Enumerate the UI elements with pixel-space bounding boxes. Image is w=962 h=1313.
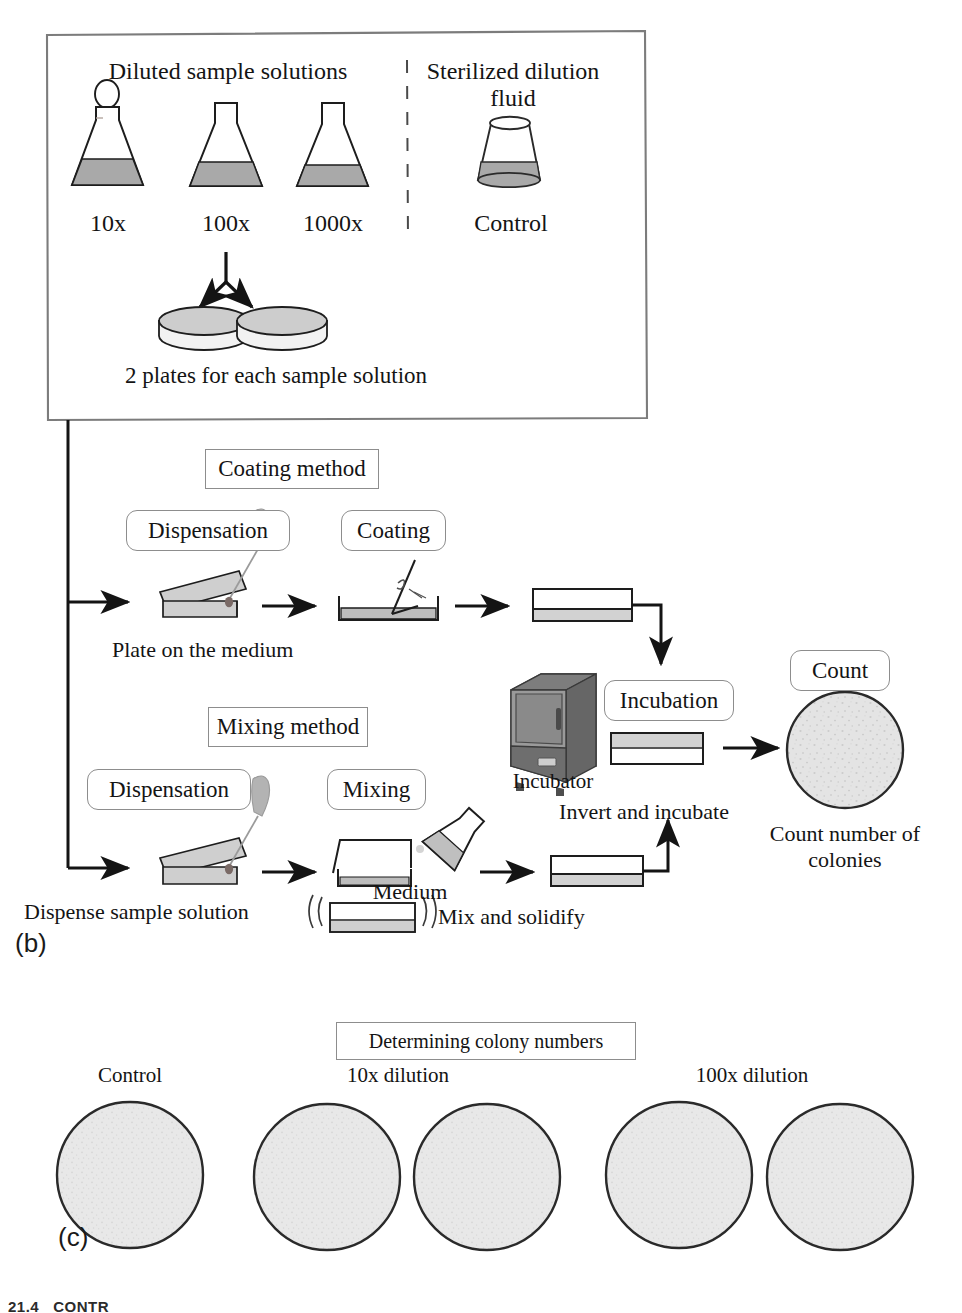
panel-c-plate-100x-b — [767, 1104, 913, 1250]
figure-footer-text: 21.4 CONTR — [8, 1298, 109, 1313]
mix-and-solidify-caption: Mix and solidify — [438, 905, 585, 930]
mixing-to-incubation-connector — [643, 820, 668, 871]
mixing-label-box: Mixing — [327, 769, 426, 810]
inverted-plate-icon — [611, 733, 703, 764]
count-caption-line1: Count number of — [770, 822, 920, 847]
plate-on-medium-caption: Plate on the medium — [112, 638, 293, 663]
flask-10x — [72, 80, 143, 185]
mixing-closed-plate — [551, 856, 643, 886]
coating-method-title: Coating method — [218, 456, 366, 482]
flask-label-1000x: 1000x — [303, 210, 363, 237]
box-divider — [407, 60, 408, 240]
flask-label-10x: 10x — [90, 210, 126, 237]
dispense-sample-caption: Dispense sample solution — [24, 900, 249, 925]
heading-diluted-samples: Diluted sample solutions — [109, 58, 348, 85]
petri-dish-left — [159, 307, 249, 350]
incubator-device-label: Incubator — [513, 770, 593, 794]
panel-c-plate-100x-a — [606, 1102, 752, 1248]
mixing-label: Mixing — [343, 777, 411, 803]
count-colony-plate — [787, 692, 903, 808]
panel-c-plate-10x-b — [414, 1104, 560, 1250]
heading-sterilized-fluid-line1: Sterilized dilution — [427, 58, 600, 85]
coating-label: Coating — [357, 518, 430, 544]
control-beaker — [478, 117, 540, 188]
coating-label-box: Coating — [341, 510, 446, 551]
figure-canvas: Diluted sample solutions Sterilized dilu… — [0, 0, 962, 1313]
incubation-label-box: Incubation — [604, 680, 734, 721]
coating-closed-plate — [533, 589, 632, 621]
mixing-dispensation-label: Dispensation — [109, 777, 229, 803]
flask-1000x — [297, 103, 368, 186]
plates-caption: 2 plates for each sample solution — [125, 363, 427, 389]
panel-label-c: (c) — [58, 1222, 88, 1253]
mixing-method-title: Mixing method — [217, 714, 359, 740]
panel-c-title-box: Determining colony numbers — [336, 1022, 636, 1060]
medium-caption: Medium — [373, 880, 448, 905]
heading-sterilized-fluid-line2: fluid — [490, 85, 535, 112]
coating-spread-icon — [339, 560, 438, 620]
coating-method-title-box: Coating method — [205, 449, 379, 489]
panel-c-plate-10x-a — [254, 1104, 400, 1250]
flask-label-100x: 100x — [202, 210, 250, 237]
invert-and-incubate-caption: Invert and incubate — [559, 800, 729, 825]
coating-dispensation-label-box: Dispensation — [126, 510, 290, 551]
incubation-label: Incubation — [620, 688, 718, 714]
coating-dispensation-label: Dispensation — [148, 518, 268, 544]
count-label: Count — [812, 658, 868, 684]
panel-c-group-label-100x: 100x dilution — [696, 1064, 809, 1088]
panel-c-group-label-10x: 10x dilution — [347, 1064, 449, 1088]
flask-100x — [190, 103, 262, 186]
petri-dish-right — [237, 307, 327, 350]
count-caption-line2: colonies — [808, 848, 881, 873]
control-label: Control — [474, 210, 547, 237]
mixing-dispensation-label-box: Dispensation — [87, 769, 251, 810]
panel-c-title: Determining colony numbers — [369, 1030, 603, 1053]
count-label-box: Count — [790, 650, 890, 691]
mixing-method-title-box: Mixing method — [208, 707, 368, 747]
mixing-pour-icon — [333, 800, 492, 886]
panel-c-group-label-control: Control — [98, 1064, 162, 1088]
panel-label-b: (b) — [15, 928, 47, 959]
coating-to-incubation-connector — [632, 605, 661, 664]
split-arrow-to-plates — [200, 252, 252, 307]
